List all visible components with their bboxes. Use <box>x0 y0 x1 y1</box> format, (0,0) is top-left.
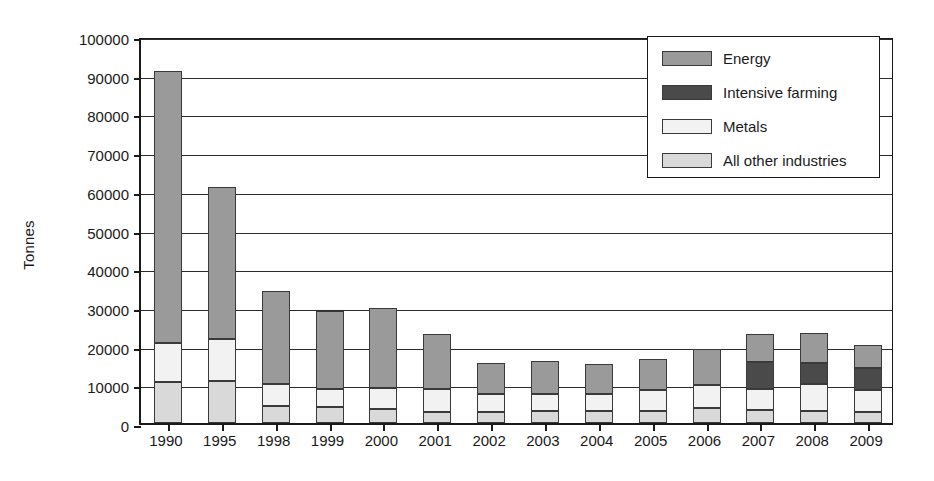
y-axis-tick-label: 100000 <box>79 31 129 48</box>
bar-segment[interactable] <box>369 388 397 409</box>
bar-segment[interactable] <box>477 394 505 412</box>
legend-item[interactable]: Energy <box>662 45 873 71</box>
bar-segment[interactable] <box>316 389 344 407</box>
legend-item[interactable]: Metals <box>662 113 873 139</box>
y-axis-tick-mark <box>134 78 141 80</box>
legend-swatch-icon <box>662 119 712 134</box>
bar-segment[interactable] <box>262 291 290 384</box>
stacked-bar-chart: Tonnes 100000900008000070000600005000040… <box>0 0 934 481</box>
bar-segment[interactable] <box>800 384 828 411</box>
y-axis-tick-mark <box>134 116 141 118</box>
bar-segment[interactable] <box>693 385 721 408</box>
bar-segment[interactable] <box>585 394 613 411</box>
bar-segment[interactable] <box>746 362 774 389</box>
bar-segment[interactable] <box>746 389 774 410</box>
bar-segment[interactable] <box>854 390 882 412</box>
x-axis-tick-label: 2002 <box>459 432 519 449</box>
bar-segment[interactable] <box>531 411 559 423</box>
legend-swatch-icon <box>662 51 712 66</box>
bar-segment[interactable] <box>585 411 613 423</box>
bar-segment[interactable] <box>531 361 559 395</box>
bar-segment[interactable] <box>154 71 182 343</box>
bar-segment[interactable] <box>369 409 397 423</box>
bar-segment[interactable] <box>477 363 505 394</box>
bar-segment[interactable] <box>154 343 182 382</box>
y-axis-tick-mark <box>134 271 141 273</box>
bar-segment[interactable] <box>585 364 613 394</box>
bar-segment[interactable] <box>746 334 774 362</box>
bar-column[interactable] <box>477 36 505 423</box>
y-axis-tick-mark <box>134 349 141 351</box>
y-axis-tick-mark <box>134 233 141 235</box>
y-axis-tick-mark <box>134 426 141 428</box>
bar-segment[interactable] <box>154 382 182 423</box>
bar-segment[interactable] <box>800 411 828 423</box>
bar-segment[interactable] <box>854 368 882 390</box>
y-axis-tick-label: 80000 <box>87 108 129 125</box>
bar-segment[interactable] <box>316 407 344 423</box>
bar-column[interactable] <box>316 36 344 423</box>
bar-segment[interactable] <box>746 410 774 423</box>
legend-item-label: Intensive farming <box>723 85 837 100</box>
bar-segment[interactable] <box>693 408 721 423</box>
bar-segment[interactable] <box>639 390 667 411</box>
legend-item[interactable]: All other industries <box>662 147 873 173</box>
bar-segment[interactable] <box>693 349 721 385</box>
bar-segment[interactable] <box>369 308 397 388</box>
legend-swatch-icon <box>662 153 712 168</box>
bar-column[interactable] <box>208 36 236 423</box>
bar-segment[interactable] <box>854 345 882 368</box>
bar-segment[interactable] <box>208 187 236 339</box>
bar-segment[interactable] <box>531 394 559 411</box>
bar-segment[interactable] <box>262 384 290 406</box>
x-axis-tick-mark <box>491 423 493 431</box>
bar-column[interactable] <box>369 36 397 423</box>
x-axis-tick-mark <box>868 423 870 431</box>
legend-item-label: All other industries <box>723 153 846 168</box>
bar-column[interactable] <box>585 36 613 423</box>
x-axis-tick-mark <box>814 423 816 431</box>
x-axis-tick-label: 2001 <box>405 432 465 449</box>
bar-segment[interactable] <box>316 311 344 389</box>
bar-segment[interactable] <box>423 334 451 389</box>
x-axis-tick-label: 2005 <box>621 432 681 449</box>
legend-item-label: Energy <box>723 51 771 66</box>
x-axis-tick-label: 1995 <box>190 432 250 449</box>
y-axis-tick-label: 10000 <box>87 379 129 396</box>
bar-segment[interactable] <box>854 412 882 423</box>
bar-segment[interactable] <box>208 339 236 381</box>
x-axis-tick-mark <box>599 423 601 431</box>
y-axis-tick-mark <box>134 310 141 312</box>
bar-segment[interactable] <box>423 412 451 423</box>
x-axis-tick-mark <box>276 423 278 431</box>
y-axis-title-text: Tonnes <box>20 185 37 305</box>
x-axis-tick-label: 2004 <box>567 432 627 449</box>
x-axis-labels: 1990199519981999200020012002200320042005… <box>139 432 893 462</box>
x-axis-tick-label: 2009 <box>836 432 896 449</box>
y-axis-tick-label: 90000 <box>87 70 129 87</box>
x-axis-tick-label: 1990 <box>136 432 196 449</box>
y-axis-title: Tonnes <box>20 65 37 185</box>
bar-segment[interactable] <box>800 363 828 384</box>
bar-segment[interactable] <box>639 359 667 390</box>
bar-column[interactable] <box>423 36 451 423</box>
y-axis-tick-label: 30000 <box>87 302 129 319</box>
bar-column[interactable] <box>154 36 182 423</box>
y-axis-tick-mark <box>134 39 141 41</box>
bar-segment[interactable] <box>423 389 451 413</box>
x-axis-tick-label: 2003 <box>513 432 573 449</box>
x-axis-tick-mark <box>653 423 655 431</box>
bar-segment[interactable] <box>800 333 828 362</box>
legend-item[interactable]: Intensive farming <box>662 79 873 105</box>
y-axis-tick-label: 50000 <box>87 225 129 242</box>
bar-segment[interactable] <box>208 381 236 423</box>
bar-column[interactable] <box>531 36 559 423</box>
bar-column[interactable] <box>262 36 290 423</box>
bar-segment[interactable] <box>477 412 505 423</box>
bar-segment[interactable] <box>639 411 667 423</box>
bar-segment[interactable] <box>262 406 290 423</box>
x-axis-tick-label: 1998 <box>244 432 304 449</box>
x-axis-tick-label: 2006 <box>675 432 735 449</box>
y-axis-tick-mark <box>134 194 141 196</box>
legend-swatch-icon <box>662 85 712 100</box>
